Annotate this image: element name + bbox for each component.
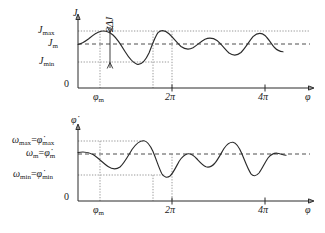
x-tick-label-phim-bottom: φm xyxy=(93,205,104,215)
curve-angular-velocity xyxy=(78,141,286,177)
y-tick-label-jmax: Jmax xyxy=(38,25,55,35)
y-tick-label-wmax: ωmax=φ̇max xyxy=(12,135,54,145)
top-origin-label: 0 xyxy=(64,79,69,89)
y-tick-label-wmin: ωmin=φ̇min xyxy=(13,169,53,179)
bottom-y-axis-label: φ̇ xyxy=(71,115,77,125)
annotation-2deltaJ-label: 2ΔJ xyxy=(104,17,115,32)
top-x-axis-label: φ xyxy=(305,92,311,102)
top-y-axis-label: J xyxy=(73,8,77,18)
x-tick-label-phim-top: φm xyxy=(93,92,104,102)
bottom-panel xyxy=(76,124,314,205)
curve-moment-of-inertia xyxy=(78,31,283,65)
x-tick-label-fourpi-bottom: 4π xyxy=(258,205,268,215)
x-tick-label-twopi-bottom: 2π xyxy=(165,205,175,215)
bottom-origin-label: 0 xyxy=(64,192,69,202)
y-tick-label-wm: ωm=φ̇m xyxy=(26,148,55,158)
x-tick-label-fourpi-top: 4π xyxy=(258,92,268,102)
y-tick-label-jmin: Jmin xyxy=(39,56,54,66)
x-tick-label-twopi-top: 2π xyxy=(165,92,175,102)
figure-root: J Jmax Jm Jmin 0 2ΔJ φm 2π 4π φ φ̇ ωmax=… xyxy=(0,0,325,233)
bottom-x-axis-label: φ xyxy=(305,205,311,215)
y-tick-label-jm: Jm xyxy=(48,38,58,48)
